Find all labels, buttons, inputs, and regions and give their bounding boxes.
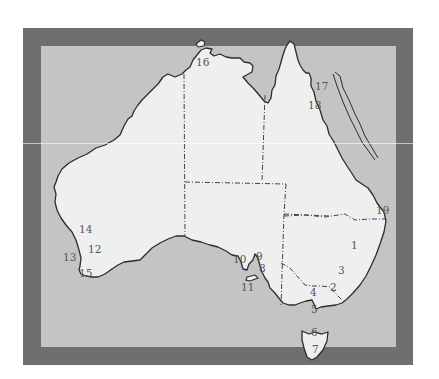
australia-map: 1 2 3 4 5 6 7 8 9 10 11 12 13 14 15 16 1…: [0, 0, 439, 379]
label-16: 16: [196, 56, 210, 68]
label-11: 11: [241, 281, 254, 293]
label-19: 19: [376, 204, 389, 216]
label-12: 12: [88, 243, 101, 255]
label-10: 10: [233, 253, 246, 265]
label-18: 18: [308, 99, 321, 111]
label-17: 17: [315, 80, 328, 92]
label-6: 6: [311, 326, 318, 338]
label-14: 14: [79, 223, 93, 235]
label-13: 13: [63, 251, 76, 263]
label-8: 8: [259, 262, 266, 274]
label-3: 3: [338, 264, 345, 276]
label-5: 5: [311, 303, 318, 315]
scan-line: [23, 143, 413, 144]
label-7: 7: [312, 343, 319, 355]
map-canvas: 1 2 3 4 5 6 7 8 9 10 11 12 13 14 15 16 1…: [0, 0, 439, 379]
label-1: 1: [351, 239, 358, 251]
label-9: 9: [256, 250, 263, 262]
label-4: 4: [310, 286, 317, 298]
label-2: 2: [330, 281, 337, 293]
label-15: 15: [79, 267, 92, 279]
